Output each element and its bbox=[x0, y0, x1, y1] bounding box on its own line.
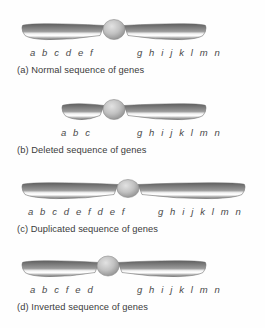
chromosome-a-graphic bbox=[0, 14, 265, 48]
chromosome-d-centromere bbox=[97, 256, 119, 276]
chromosome-b bbox=[0, 94, 265, 128]
chromosome-d-left-arm bbox=[22, 261, 99, 277]
gene-label-right-b: g h i j k l m n bbox=[137, 126, 222, 140]
chromosome-c-centromere bbox=[117, 180, 139, 198]
gene-label-right-d: g h i j k l m n bbox=[137, 283, 222, 297]
caption-b: (b) Deleted sequence of genes bbox=[17, 144, 146, 156]
chromosome-a bbox=[0, 14, 265, 48]
chromosome-b-right-arm bbox=[124, 104, 206, 120]
chromosome-c bbox=[0, 173, 265, 207]
chromosome-b-centromere bbox=[103, 100, 125, 120]
chromosome-c-right-arm bbox=[138, 183, 245, 199]
chromosome-mutation-figure: a b c d e f g h i j k l m n (a) Normal s… bbox=[0, 0, 265, 328]
chromosome-d bbox=[0, 251, 265, 285]
gene-label-left-d: a b c f e d bbox=[30, 283, 95, 297]
gene-label-right-a: g h i j k l m n bbox=[137, 46, 222, 60]
chromosome-a-centromere bbox=[103, 20, 125, 40]
chromosome-c-left-arm bbox=[22, 183, 118, 199]
gene-labels-d: a b c f e d g h i j k l m n bbox=[0, 283, 265, 297]
chromosome-b-left-arm bbox=[62, 104, 104, 120]
gene-labels-b: a b c g h i j k l m n bbox=[0, 126, 265, 140]
chromosome-d-graphic bbox=[0, 251, 265, 285]
chromosome-a-right-arm bbox=[124, 24, 206, 40]
chromosome-d-right-arm bbox=[118, 261, 206, 277]
caption-a: (a) Normal sequence of genes bbox=[17, 64, 144, 76]
gene-label-left-a: a b c d e f bbox=[30, 46, 95, 60]
caption-d: (d) Inverted sequence of genes bbox=[17, 301, 148, 313]
gene-label-right-c: g h i j k l m n bbox=[158, 205, 243, 219]
gene-label-left-c: a b c d e f d e f bbox=[28, 205, 127, 219]
chromosome-a-left-arm bbox=[22, 24, 104, 40]
chromosome-c-graphic bbox=[0, 173, 265, 207]
chromosome-b-graphic bbox=[0, 94, 265, 128]
gene-label-left-b: a b c bbox=[61, 126, 92, 140]
caption-c: (c) Duplicated sequence of genes bbox=[17, 223, 158, 235]
gene-labels-c: a b c d e f d e f g h i j k l m n bbox=[0, 205, 265, 219]
gene-labels-a: a b c d e f g h i j k l m n bbox=[0, 46, 265, 60]
